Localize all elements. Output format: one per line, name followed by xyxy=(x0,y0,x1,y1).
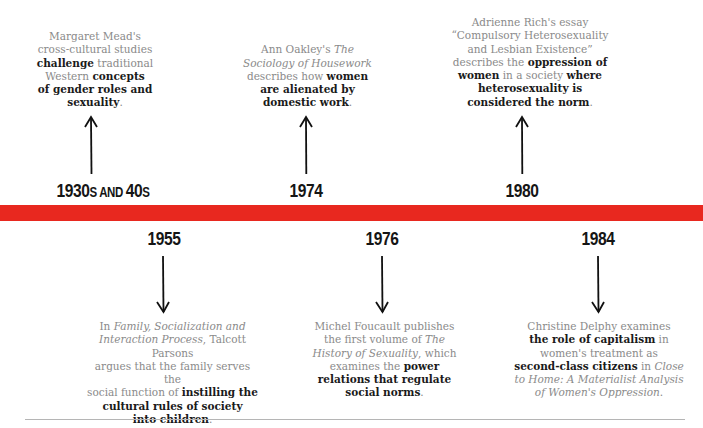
text-italic: Sociology of Housework xyxy=(243,57,372,69)
text: Adrienne Rich's essay xyxy=(472,16,589,28)
text: Ann Oakley's xyxy=(261,43,334,55)
year-label-1930s-and-40s: 1930s and 40s xyxy=(42,180,165,202)
text-bold: relations that regulate xyxy=(318,373,451,385)
text: social function of xyxy=(87,386,182,398)
event-1980-description: Adrienne Rich's essay “Compulsory Hetero… xyxy=(450,16,610,109)
text: s xyxy=(142,184,149,200)
text: argues that the family serves the xyxy=(95,360,250,385)
text-italic: Interaction Process xyxy=(99,333,203,345)
text: . xyxy=(119,96,122,108)
text: s and xyxy=(90,184,126,200)
text: in xyxy=(638,360,655,372)
text-bold: second-class citizens xyxy=(514,360,637,372)
arrow-up-icon xyxy=(83,114,99,176)
text-bold: women xyxy=(327,70,368,82)
text-bold: instilling the xyxy=(182,386,258,398)
text: examines the xyxy=(330,360,404,372)
text: “Compulsory Heterosexuality xyxy=(451,29,608,41)
text-bold: where xyxy=(566,69,602,81)
event-1976-description: Michel Foucault publishes the first volu… xyxy=(312,320,457,400)
text-bold: power xyxy=(404,360,440,372)
text-italic: The xyxy=(334,43,354,55)
text: . xyxy=(349,96,352,108)
text-italic: Close xyxy=(654,360,683,372)
text: Margaret Mead's xyxy=(49,30,141,42)
footer-rule xyxy=(25,419,685,420)
event-1984-description: Christine Delphy examines the role of ca… xyxy=(510,320,688,400)
text: traditional xyxy=(94,57,153,69)
arrow-down-icon xyxy=(155,254,171,316)
text-bold: are alienated by xyxy=(260,83,355,95)
text: . xyxy=(660,386,663,398)
timeline-bar xyxy=(0,205,703,221)
text: 40 xyxy=(126,180,143,201)
text: Michel Foucault publishes xyxy=(315,320,455,332)
text: cross-cultural studies xyxy=(38,43,153,55)
arrow-down-icon xyxy=(374,254,390,316)
year-label-1974: 1974 xyxy=(273,180,339,202)
year-label-1976: 1976 xyxy=(349,228,415,250)
year-label-1980: 1980 xyxy=(489,180,555,202)
text: . xyxy=(589,96,592,108)
text-bold: women xyxy=(458,69,499,81)
text: the first volume of xyxy=(324,333,425,345)
text: . xyxy=(420,386,423,398)
text: women's treatment as xyxy=(540,347,658,359)
year-label-1955: 1955 xyxy=(131,228,197,250)
text-bold: heterosexuality is xyxy=(478,82,582,94)
text-bold: sexuality xyxy=(67,96,119,108)
year-label-1984: 1984 xyxy=(565,228,631,250)
text: Western xyxy=(45,70,92,82)
text-italic: of Women's Oppression xyxy=(535,386,660,398)
text-bold: considered the norm xyxy=(467,96,589,108)
text: in xyxy=(655,333,668,345)
text-bold: of gender roles and xyxy=(38,83,153,95)
arrow-down-icon xyxy=(590,254,606,316)
text: 1930 xyxy=(57,180,90,201)
text: , which xyxy=(418,347,456,359)
text-bold: oppression of xyxy=(528,56,608,68)
text: in a society xyxy=(499,69,566,81)
text-italic: History of Sexuality xyxy=(313,347,419,359)
text: describes the xyxy=(453,56,528,68)
text-bold: challenge xyxy=(37,57,94,69)
text: In xyxy=(99,320,113,332)
arrow-up-icon xyxy=(298,114,314,176)
text: Christine Delphy examines xyxy=(527,320,670,332)
text-italic: Family, Socialization and xyxy=(114,320,246,332)
text: and Lesbian Existence” xyxy=(467,43,592,55)
text-bold: concepts xyxy=(92,70,144,82)
text-italic: The xyxy=(425,333,445,345)
text-bold: cultural rules of society xyxy=(103,400,243,412)
arrow-up-icon xyxy=(514,114,530,176)
text-bold: domestic work xyxy=(263,96,349,108)
text-bold: social norms xyxy=(345,386,420,398)
text-bold: the role of capitalism xyxy=(529,333,655,345)
text: describes how xyxy=(247,70,327,82)
event-1930s-description: Margaret Mead's cross-cultural studies c… xyxy=(35,30,155,110)
text-italic: to Home: A Materialist Analysis xyxy=(514,373,683,385)
event-1955-description: In Family, Socialization and Interaction… xyxy=(85,320,260,426)
event-1974-description: Ann Oakley's The Sociology of Housework … xyxy=(240,30,375,110)
